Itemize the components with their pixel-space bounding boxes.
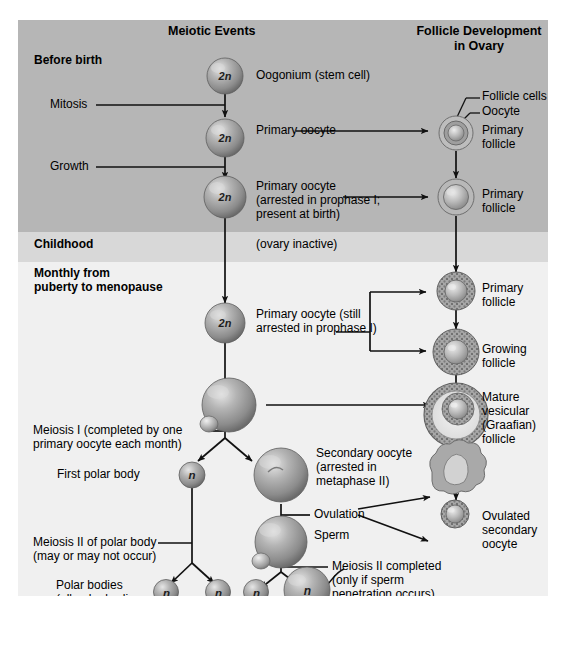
label-secondary-oocyte-line2: (arrested in	[316, 461, 377, 475]
label-mature-follicle-line2: vesicular	[482, 405, 529, 419]
label-meiosis-two-polar-line1: Meiosis II of polar body	[33, 536, 156, 550]
ploidy-tag-polar-body-a: n	[154, 580, 179, 596]
label-meiosis-two-completed-line1: Meiosis II completed	[332, 560, 441, 574]
stage-label-childhood: Childhood	[34, 238, 93, 252]
stage-label-reproductive-line1: Monthly from	[34, 267, 110, 281]
label-ovary-inactive: (ovary inactive)	[256, 238, 337, 252]
label-ovulation: Ovulation	[314, 508, 365, 522]
label-secondary-oocyte-line1: Secondary oocyte	[316, 447, 412, 461]
label-meiosis-one-line1: Meiosis I (completed by one	[33, 424, 182, 438]
label-first-polar-body: First polar body	[57, 468, 140, 482]
label-primary-oocyte-arrested-line3: present at birth)	[256, 208, 340, 222]
ploidy-tag-ovum: n	[285, 568, 330, 596]
label-mature-follicle-line3: (Graafian)	[482, 419, 536, 433]
label-primary-oocyte-still-line2: arrested in prophase I)	[256, 322, 377, 336]
label-meiosis-two-polar-line2: (may or may not occur)	[33, 550, 156, 564]
label-primary-follicle-2-line1: Primary	[482, 188, 523, 202]
label-primary-oocyte: Primary oocyte	[256, 124, 336, 138]
ploidy-tag-primary-oocyte-arrested: 2n	[204, 176, 246, 218]
header-meiotic-events: Meiotic Events	[168, 24, 256, 38]
label-primary-oocyte-still-line1: Primary oocyte (still	[256, 308, 361, 322]
ploidy-tag-primary-oocyte: 2n	[206, 119, 244, 157]
label-primary-follicle-1-line2: follicle	[482, 138, 515, 152]
label-oocyte: Oocyte	[482, 105, 520, 119]
ploidy-tag-polar-body-b: n	[206, 580, 231, 596]
label-growth: Growth	[50, 160, 89, 174]
label-primary-follicle-2-line2: follicle	[482, 202, 515, 216]
label-ovulated-oocyte-line1: Ovulated	[482, 510, 530, 524]
label-sperm: Sperm	[314, 529, 349, 543]
label-ovulated-oocyte-line3: oocyte	[482, 538, 517, 552]
label-mitosis: Mitosis	[50, 98, 87, 112]
label-follicle-cells: Follicle cells	[482, 90, 547, 104]
ploidy-tag-oogonium: 2n	[207, 58, 243, 94]
label-primary-follicle-3-line1: Primary	[482, 282, 523, 296]
label-polar-bodies-line1: Polar bodies	[56, 579, 123, 593]
label-mature-follicle-line1: Mature	[482, 391, 519, 405]
stage-label-before-birth: Before birth	[34, 54, 102, 68]
ploidy-tag-primary-oocyte-still: 2n	[205, 303, 245, 343]
ploidy-tag-second-polar-body: n	[244, 580, 269, 596]
label-primary-oocyte-arrested-line2: (arrested in prophase I;	[256, 194, 380, 208]
label-primary-oocyte-arrested-line1: Primary oocyte	[256, 180, 336, 194]
label-meiosis-two-completed-line2: (only if sperm	[332, 574, 404, 588]
label-ovulated-oocyte-line2: secondary	[482, 524, 537, 538]
header-follicle-development-line2: in Ovary	[404, 39, 548, 53]
label-primary-follicle-3-line2: follicle	[482, 296, 515, 310]
label-secondary-oocyte-line3: metaphase II)	[316, 475, 389, 489]
oogenesis-diagram: 2n 2n 2n 2n n n n n n Meiotic Events Fol…	[18, 20, 548, 596]
label-growing-follicle-line2: follicle	[482, 357, 515, 371]
label-oogonium: Oogonium (stem cell)	[256, 69, 370, 83]
label-primary-follicle-1-line1: Primary	[482, 124, 523, 138]
stage-label-reproductive-line2: puberty to menopause	[34, 281, 163, 295]
label-meiosis-two-completed-line3: penetration occurs)	[332, 588, 435, 596]
header-follicle-development-line1: Follicle Development	[404, 24, 548, 38]
label-mature-follicle-line4: follicle	[482, 433, 515, 447]
label-growing-follicle-line1: Growing	[482, 343, 527, 357]
ploidy-tag-first-polar-body: n	[179, 462, 205, 488]
label-polar-bodies-line2: (all polar bodies	[56, 593, 141, 596]
label-meiosis-one-line2: primary oocyte each month)	[33, 438, 182, 452]
